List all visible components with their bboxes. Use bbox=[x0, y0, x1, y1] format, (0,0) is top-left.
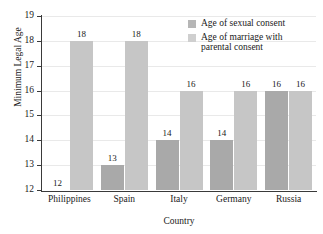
y-axis-tick bbox=[37, 165, 42, 166]
legend-label-series-0: Age of sexual consent bbox=[188, 18, 285, 29]
bar-value-label-spain-consent: 13 bbox=[101, 154, 124, 163]
y-axis-tick bbox=[37, 91, 42, 92]
y-axis-tick-label: 16 bbox=[8, 86, 34, 96]
legend-label-series-1-line-1: Age of marriage with bbox=[188, 32, 285, 43]
legend-label-series-1-line-2: parental consent bbox=[188, 42, 285, 53]
x-axis-label-germany: Germany bbox=[206, 194, 261, 204]
y-axis-tick bbox=[37, 16, 42, 17]
legend-swatch-icon-series-0 bbox=[188, 20, 196, 28]
y-axis-tick-label: 15 bbox=[8, 110, 34, 120]
y-axis-tick bbox=[37, 66, 42, 67]
y-axis-tick-label: 19 bbox=[8, 11, 34, 21]
y-axis-tick bbox=[37, 140, 42, 141]
y-axis-tick-label: 14 bbox=[8, 135, 34, 145]
bar-russia-consent bbox=[265, 91, 288, 190]
bar-value-label-russia-consent: 16 bbox=[265, 80, 288, 89]
x-axis-label-italy: Italy bbox=[152, 194, 207, 204]
y-axis-tick-label: 12 bbox=[8, 185, 34, 195]
bar-value-label-russia-marriage: 16 bbox=[289, 80, 312, 89]
bar-italy-consent bbox=[156, 140, 179, 190]
legend: Age of sexual consent Age of marriage wi… bbox=[188, 18, 285, 56]
legend-swatch-icon-series-1 bbox=[188, 34, 196, 42]
y-axis-tick bbox=[37, 41, 42, 42]
gridline bbox=[42, 16, 316, 17]
legend-entry-sexual-consent[interactable]: Age of sexual consent bbox=[188, 18, 285, 29]
y-axis-tick bbox=[37, 190, 42, 191]
bar-value-label-spain-marriage: 18 bbox=[125, 30, 148, 39]
y-axis-tick-label: 13 bbox=[8, 160, 34, 170]
x-axis-label-philippines: Philippines bbox=[42, 194, 97, 204]
bar-russia-marriage bbox=[289, 91, 312, 190]
bar-chart-figure: Minimum Legal Ages of Sexual Consent and… bbox=[0, 0, 323, 234]
legend-entry-marriage-parental-consent[interactable]: Age of marriage with parental consent bbox=[188, 32, 285, 53]
bar-spain-marriage bbox=[125, 41, 148, 190]
bar-value-label-germany-marriage: 16 bbox=[234, 80, 257, 89]
bar-italy-marriage bbox=[180, 91, 203, 190]
bar-philippines-marriage bbox=[70, 41, 93, 190]
bar-spain-consent bbox=[101, 165, 124, 190]
bar-value-label-philippines-consent: 12 bbox=[46, 179, 69, 188]
x-axis-label: Country bbox=[42, 216, 316, 226]
x-axis-label-russia: Russia bbox=[261, 194, 316, 204]
y-axis-tick bbox=[37, 115, 42, 116]
bar-germany-consent bbox=[210, 140, 233, 190]
bar-value-label-italy-marriage: 16 bbox=[180, 80, 203, 89]
x-axis-label-spain: Spain bbox=[97, 194, 152, 204]
bar-germany-marriage bbox=[234, 91, 257, 190]
bar-value-label-germany-consent: 14 bbox=[210, 129, 233, 138]
bar-value-label-philippines-marriage: 18 bbox=[70, 30, 93, 39]
y-axis-tick-label: 18 bbox=[8, 36, 34, 46]
x-axis-line bbox=[41, 191, 317, 192]
bar-value-label-italy-consent: 14 bbox=[156, 129, 179, 138]
y-axis-tick-label: 17 bbox=[8, 61, 34, 71]
